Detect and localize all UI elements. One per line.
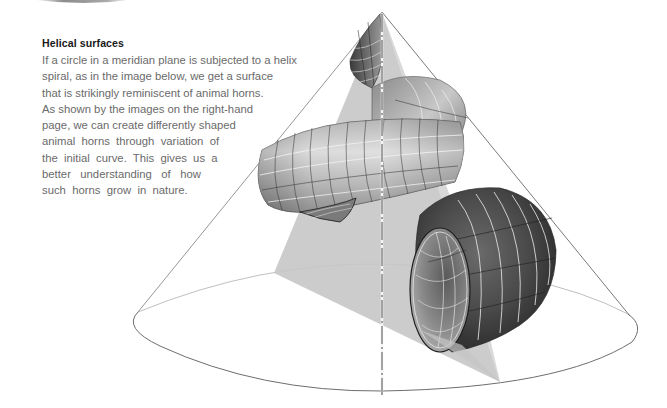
horn-lower-tube [410,188,556,352]
body-line-8: better understanding of how [42,166,342,182]
horn-tip [350,14,382,88]
horn-opening [410,228,470,352]
body-line-5: page, we can create differently shaped [42,117,342,133]
body-line-6: animal horns through variation of [42,133,342,149]
body-line-4: As shown by the images on the right-hand [42,101,342,117]
helical-surfaces-section: Helical surfaces If a circle in a meridi… [42,35,342,199]
book-page: Helical surfaces If a circle in a meridi… [0,0,667,408]
body-line-1: If a circle in a meridian plane is subje… [42,52,342,68]
body-line-7: the initial curve. This gives us a [42,150,342,166]
section-title: Helical surfaces [42,35,318,51]
body-line-3: that is strikingly reminiscent of animal… [42,85,342,101]
body-line-2: spiral, as in the image below, we get a … [42,68,342,84]
body-line-9: such horns grow in nature. [42,182,342,198]
